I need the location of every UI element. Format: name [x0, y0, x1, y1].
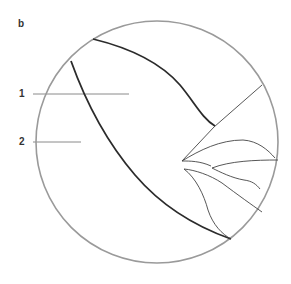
lower-boundary-curve — [71, 61, 231, 239]
upper-boundary-curve — [93, 39, 215, 126]
magnified-diagram — [0, 0, 291, 284]
inner-tip-outline — [182, 161, 211, 166]
diagonal-outline — [182, 85, 262, 161]
upper-lip-outline — [182, 140, 275, 161]
lower-lip-outline — [184, 169, 262, 212]
middle-lip-outline — [212, 160, 278, 189]
